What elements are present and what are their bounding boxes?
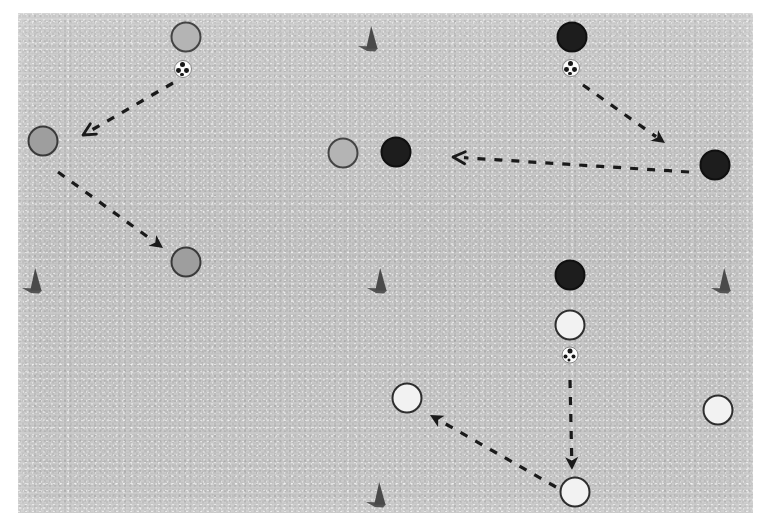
player-marker-dark-right[interactable] xyxy=(700,150,731,181)
player-marker-white-left[interactable] xyxy=(392,383,423,414)
soccer-drill-diagram xyxy=(0,0,764,523)
player-marker-dark-center[interactable] xyxy=(381,137,412,168)
player-marker-white-upper[interactable] xyxy=(555,310,586,341)
training-cone-icon-cone-right-mid[interactable] xyxy=(709,266,735,296)
training-cone-icon-cone-left-mid[interactable] xyxy=(20,266,46,296)
soccer-ball-icon-ball-top-left[interactable] xyxy=(174,60,192,78)
player-marker-grey-mid-left[interactable] xyxy=(171,247,202,278)
player-marker-dark-lower-center[interactable] xyxy=(555,260,586,291)
training-cone-icon-cone-top-center[interactable] xyxy=(356,24,382,54)
player-marker-dark-top[interactable] xyxy=(557,22,588,53)
soccer-ball-icon-ball-top-right[interactable] xyxy=(562,59,580,77)
soccer-ball-icon-ball-bottom-mid[interactable] xyxy=(562,347,579,364)
player-marker-grey-center[interactable] xyxy=(328,138,359,169)
player-marker-grey-top[interactable] xyxy=(171,22,202,53)
training-cone-icon-cone-center-mid[interactable] xyxy=(365,266,391,296)
player-marker-white-bottom[interactable] xyxy=(560,477,591,508)
training-cone-icon-cone-bottom-center[interactable] xyxy=(364,480,390,510)
player-marker-white-right[interactable] xyxy=(703,395,734,426)
markers-layer xyxy=(0,0,764,523)
player-marker-grey-left[interactable] xyxy=(28,126,59,157)
